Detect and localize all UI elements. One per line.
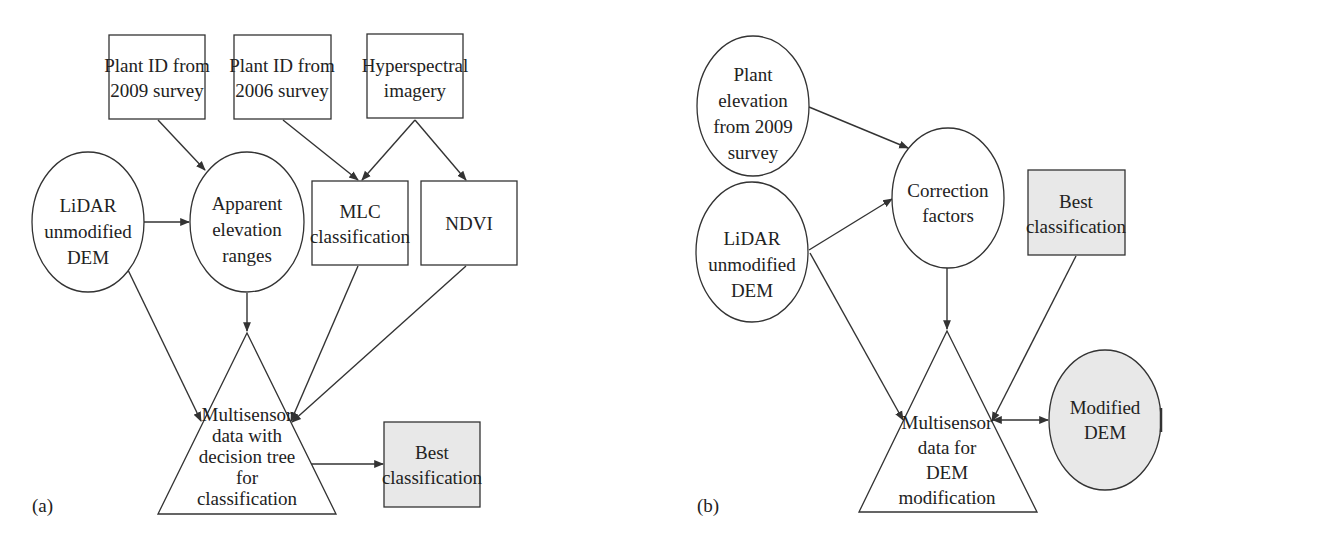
node-plant-elevation-2009: Plantelevationfrom 2009survey	[697, 36, 809, 176]
node-plant-id-2009: Plant ID from2009 survey	[104, 35, 210, 119]
node-best-classification-b: Bestclassification	[1026, 170, 1127, 255]
node-lidar-unmodified-dem: LiDARunmodifiedDEM	[32, 152, 144, 292]
edge-mlc-to-multisensor	[291, 266, 358, 421]
node-correction-factors: Correctionfactors	[892, 128, 1004, 268]
edge-plant2009-to-apparent	[158, 120, 205, 170]
node-best-classification: Bestclassification	[382, 422, 483, 507]
edge-lidar-to-multisensor	[810, 253, 903, 420]
node-apparent-elevation-ranges: Apparentelevationranges	[190, 152, 304, 292]
edge-plant2006-to-mlc	[283, 120, 358, 180]
node-mlc-classification: MLCclassification	[310, 181, 411, 265]
edge-plantelev-to-correction	[809, 107, 908, 148]
node-plant-id-2006: Plant ID from2006 survey	[229, 35, 335, 119]
panel-a-label: (a)	[32, 495, 53, 517]
edge-ndvi-to-multisensor	[292, 266, 466, 422]
flowchart-canvas: Plant ID from2009 survey Plant ID from20…	[0, 0, 1344, 548]
svg-text:NDVI: NDVI	[445, 213, 493, 234]
node-hyperspectral-imagery: Hyperspectralimagery	[362, 34, 469, 118]
node-ndvi: NDVI	[421, 181, 517, 265]
svg-text:Multisensordata withdecision t: Multisensordata withdecision treeforclas…	[197, 404, 298, 509]
node-lidar-unmodified-dem-b: LiDARunmodifiedDEM	[696, 182, 808, 322]
node-multisensor-dem-modification: Multisensordata forDEMmodification	[859, 331, 1037, 512]
edge-lidar-to-correction	[809, 199, 892, 250]
edge-hyper-to-ndvi	[415, 120, 466, 180]
node-modified-dem: ModifiedDEM	[1049, 350, 1161, 490]
node-multisensor-decision-tree: Multisensordata withdecision treeforclas…	[158, 333, 336, 514]
panel-b-label: (b)	[697, 495, 719, 517]
panel-a: Plant ID from2009 survey Plant ID from20…	[32, 34, 517, 517]
edge-lidar-to-multisensor	[128, 270, 201, 421]
edge-hyper-to-mlc	[362, 120, 415, 180]
panel-b: Plantelevationfrom 2009survey LiDARunmod…	[696, 36, 1161, 517]
